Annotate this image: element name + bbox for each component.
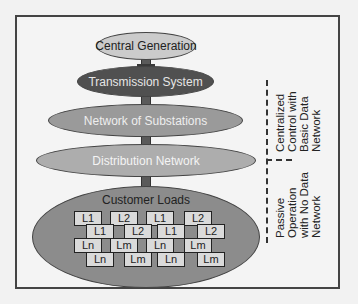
annotation-line: Control with [286, 91, 298, 152]
load-box: Lm [124, 252, 152, 267]
distribution-network-label: Distribution Network [92, 154, 199, 168]
annotation-line: with No Data [298, 172, 310, 238]
annotation-line: Centralized [274, 91, 286, 152]
central-generation-node: Central Generation [96, 32, 196, 60]
passive-operation-annotation: Passive Operation with No Data Network [274, 172, 322, 238]
annotation-line: Network [310, 91, 322, 152]
transmission-system-label: Transmission System [88, 75, 202, 89]
central-generation-label: Central Generation [95, 39, 196, 53]
annotation-line: Passive [274, 172, 286, 238]
load-box: L2 [197, 224, 225, 239]
annotation-line: Network [310, 172, 322, 238]
network-of-substations-label: Network of Substations [84, 114, 207, 128]
load-box: Lm [197, 252, 225, 267]
annotation-line: Operation [286, 172, 298, 238]
load-box: Lm [110, 238, 138, 253]
customer-loads-node: Customer Loads L1 L2 L1 L2 L1 L2 L1 L2 L… [32, 186, 260, 288]
load-box: L2 [124, 224, 152, 239]
dashed-divider-vertical [266, 80, 268, 243]
load-box: Ln [146, 238, 174, 253]
load-box: Ln [157, 252, 185, 267]
dashed-divider-horizontal [266, 159, 292, 161]
annotation-line: Basic Data [298, 91, 310, 152]
customer-loads-label: Customer Loads [33, 193, 259, 207]
load-box: L1 [157, 224, 185, 239]
centralized-control-annotation: Centralized Control with Basic Data Netw… [274, 91, 322, 152]
distribution-network-node: Distribution Network [36, 144, 256, 177]
load-box: L1 [86, 224, 114, 239]
network-of-substations-node: Network of Substations [48, 104, 243, 137]
load-box: Ln [86, 252, 114, 267]
transmission-system-node: Transmission System [77, 66, 214, 97]
load-box: Ln [74, 238, 102, 253]
load-box: Lm [184, 238, 212, 253]
